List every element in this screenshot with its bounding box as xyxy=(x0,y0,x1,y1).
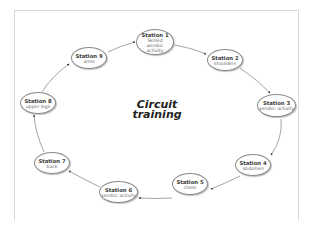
arrow-6-to-7 xyxy=(69,171,100,187)
arrow-3-to-4 xyxy=(271,119,281,155)
station-subtitle: arms xyxy=(83,59,95,64)
station-5-node: Station 5 chest xyxy=(172,173,208,195)
station-6-node: Station 6 aerobic activity xyxy=(99,181,138,203)
station-subtitle: aerobic activity xyxy=(259,106,294,111)
arrow-7-to-8 xyxy=(34,115,44,152)
station-subtitle: Skilled aerobic activity xyxy=(140,38,170,53)
station-subtitle: chest xyxy=(184,185,196,190)
arrow-2-to-3 xyxy=(240,68,270,93)
arrow-9-to-1 xyxy=(108,42,135,52)
station-1-node: Station 1 Skilled aerobic activity xyxy=(136,29,174,55)
arrow-8-to-9 xyxy=(42,64,69,92)
arrow-1-to-2 xyxy=(175,45,206,54)
station-subtitle: abdomen xyxy=(242,166,264,171)
arrow-5-to-6 xyxy=(139,198,172,199)
station-subtitle: back xyxy=(47,164,58,169)
diagram-title: Circuit training xyxy=(125,100,189,120)
station-subtitle: aerobic activity xyxy=(101,193,136,198)
station-4-node: Station 4 abdomen xyxy=(235,154,271,176)
title-line-2: training xyxy=(125,110,189,120)
station-7-node: Station 7 back xyxy=(34,152,70,174)
station-2-node: Station 2 shoulders xyxy=(207,49,243,71)
station-9-node: Station 9 arms xyxy=(71,47,107,69)
arrow-4-to-5 xyxy=(211,176,240,189)
station-3-node: Station 3 aerobic activity xyxy=(257,94,296,117)
station-8-node: Station 8 upper legs xyxy=(20,92,56,114)
station-subtitle: shoulders xyxy=(214,61,236,66)
station-subtitle: upper legs xyxy=(26,104,50,109)
